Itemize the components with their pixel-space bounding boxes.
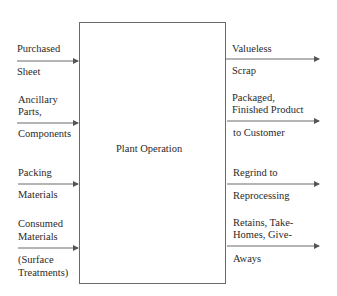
input-label-parts: Parts, xyxy=(18,106,42,118)
output-label-regrind: Regrind to xyxy=(233,167,278,179)
output-label-aways: Aways xyxy=(233,253,261,265)
input-label-treatments: Treatments) xyxy=(18,267,68,279)
output-label-homes: Homes, Give- xyxy=(233,229,292,241)
output-label-valueless: Valueless xyxy=(232,43,272,55)
output-label-finished-product: Finished Product xyxy=(232,104,303,116)
input-label-ancillary: Ancillary xyxy=(18,94,58,106)
input-label-consumed-materials: Materials xyxy=(18,231,58,243)
input-label-materials: Materials xyxy=(18,189,58,201)
output-label-packaged: Packaged, xyxy=(232,92,275,104)
input-label-surface: (Surface xyxy=(18,254,54,266)
output-label-to-customer: to Customer xyxy=(233,127,285,139)
output-label-reprocessing: Reprocessing xyxy=(233,190,290,202)
input-label-sheet: Sheet xyxy=(17,66,40,78)
output-label-retains: Retains, Take- xyxy=(233,217,293,229)
input-label-consumed: Consumed xyxy=(18,218,63,230)
output-label-scrap: Scrap xyxy=(232,65,256,77)
input-label-purchased: Purchased xyxy=(17,43,60,55)
input-label-packing: Packing xyxy=(18,167,52,179)
input-label-components: Components xyxy=(18,128,71,140)
